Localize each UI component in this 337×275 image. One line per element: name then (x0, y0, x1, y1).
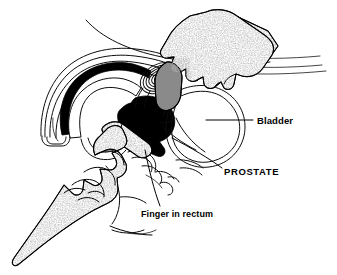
label-finger-in-rectum: Finger in rectum (141, 209, 213, 219)
label-bladder: Bladder (257, 115, 293, 126)
anatomical-diagram-canvas: Bladder PROSTATE Finger in rectum (0, 0, 337, 275)
label-prostate: PROSTATE (224, 166, 279, 177)
medical-illustration-figure: Bladder PROSTATE Finger in rectum (0, 0, 337, 275)
